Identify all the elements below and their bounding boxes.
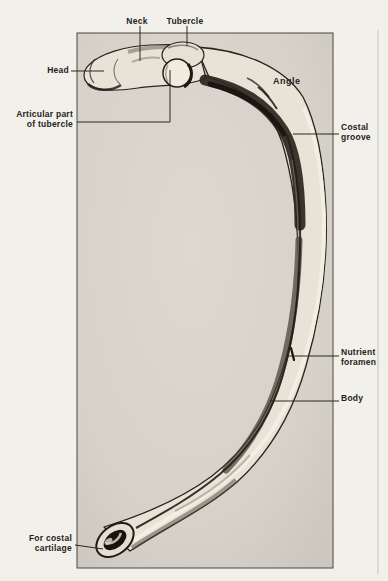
anatomy-figure-stage: Neck Tubercle Head Articular part of tub… xyxy=(0,0,388,581)
label-costal-groove: Costal groove xyxy=(341,123,383,142)
label-body: Body xyxy=(341,394,375,404)
label-nutrient-foramen: Nutrient foramen xyxy=(341,348,385,367)
label-head: Head xyxy=(28,66,69,76)
label-neck: Neck xyxy=(118,17,156,27)
label-articular-part: Articular part of tubercle xyxy=(4,110,73,129)
rib-figure-svg xyxy=(0,0,388,581)
label-for-costal-cartilage: For costal cartilage xyxy=(6,534,72,553)
label-tubercle: Tubercle xyxy=(161,17,209,27)
label-angle: Angle xyxy=(273,77,313,87)
